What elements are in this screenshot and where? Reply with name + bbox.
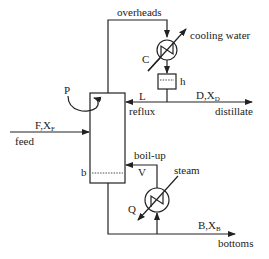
bottoms-label: bottoms [218, 238, 253, 249]
steam-label: steam [174, 165, 200, 176]
accumulator [158, 74, 176, 89]
bottoms-symbol-label: B,XB [198, 220, 221, 233]
pressure-arc-icon [68, 96, 98, 111]
bottom-level-label: b [81, 167, 87, 178]
distillate-symbol-label: D,XD [196, 90, 220, 103]
steam-line [150, 176, 178, 207]
feed-label: feed [15, 136, 34, 147]
condenser-label: C [142, 54, 149, 65]
cooling-water-label: cooling water [190, 30, 250, 41]
reflux-symbol-label: L [139, 91, 146, 102]
feed-symbol-label: F,XF [35, 120, 55, 133]
vapor-symbol-label: V [138, 167, 146, 178]
holdup-label: h [180, 76, 186, 87]
pressure-label: P [64, 85, 70, 96]
reflux-label: reflux [129, 106, 155, 117]
boilup-label: boil-up [134, 150, 166, 161]
condenser-duty-line [148, 57, 161, 71]
reboiler-duty-label: Q [128, 204, 136, 215]
reboiler-duty-arrow [138, 207, 150, 220]
column [90, 93, 125, 183]
distillate-label: distillate [215, 106, 253, 117]
overheads-label: overheads [117, 7, 162, 18]
